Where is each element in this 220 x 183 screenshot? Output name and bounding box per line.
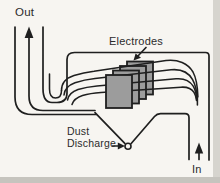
precipitator-diagram xyxy=(0,0,220,183)
dust-discharge-label-line1: Dust xyxy=(67,126,89,138)
diagram-canvas: Out Electrodes Dust Discharge In xyxy=(0,0,220,183)
outer-boundary xyxy=(15,27,96,115)
flow-hairpin xyxy=(50,74,62,98)
electrodes-arrow-icon xyxy=(134,48,147,61)
out-flow-arrow-icon xyxy=(25,27,95,111)
dust-outlet xyxy=(125,143,131,149)
electrode-plate xyxy=(106,75,132,108)
electrode-plate-front xyxy=(106,75,132,108)
out-label: Out xyxy=(15,6,34,18)
in-flow-arrow-icon xyxy=(195,143,203,160)
in-label: In xyxy=(192,163,202,175)
dust-discharge-label-line2: Discharge xyxy=(67,138,116,150)
electrodes-label: Electrodes xyxy=(109,35,163,47)
